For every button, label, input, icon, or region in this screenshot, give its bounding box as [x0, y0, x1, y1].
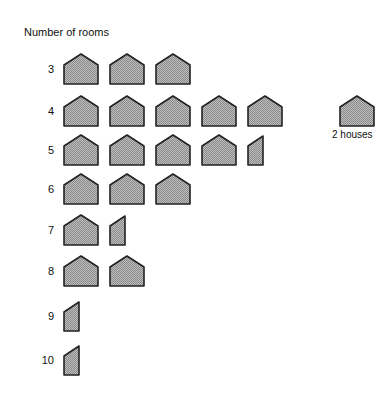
- house-icon: [108, 133, 146, 167]
- row-label: 9: [0, 310, 54, 322]
- pictograph-row: 6: [0, 172, 330, 208]
- pictograph-row: 10: [0, 343, 330, 379]
- house-icon: [154, 94, 192, 128]
- house-icon: [62, 213, 100, 247]
- house-icon: [154, 133, 192, 167]
- row-label: 8: [0, 265, 54, 277]
- house-icon: [338, 94, 376, 128]
- house-icon: [108, 52, 146, 86]
- pictograph-row: 5: [0, 133, 330, 169]
- row-label: 4: [0, 105, 54, 117]
- house-icon: [154, 172, 192, 206]
- half-house-icon: [62, 299, 100, 333]
- pictograph-row: 7: [0, 213, 330, 249]
- legend-label: 2 houses: [332, 129, 373, 140]
- pictograph-row: 3: [0, 52, 330, 88]
- house-icon: [246, 94, 284, 128]
- house-icon: [62, 133, 100, 167]
- half-house-icon: [62, 343, 100, 377]
- half-house-icon: [246, 133, 284, 167]
- house-icon: [108, 172, 146, 206]
- row-label: 10: [0, 354, 54, 366]
- pictograph-row: 8: [0, 254, 330, 290]
- pictograph-row: 9: [0, 299, 330, 335]
- house-icon: [200, 94, 238, 128]
- house-icon: [62, 254, 100, 288]
- house-icon: [108, 94, 146, 128]
- row-label: 3: [0, 63, 54, 75]
- chart-title: Number of rooms: [24, 26, 109, 38]
- row-label: 7: [0, 224, 54, 236]
- half-house-icon: [108, 213, 146, 247]
- house-icon: [108, 254, 146, 288]
- house-icon: [200, 133, 238, 167]
- house-icon: [154, 52, 192, 86]
- row-label: 6: [0, 183, 54, 195]
- house-icon: [62, 52, 100, 86]
- house-icon: [62, 172, 100, 206]
- row-label: 5: [0, 144, 54, 156]
- house-icon: [62, 94, 100, 128]
- pictograph-row: 4: [0, 94, 330, 130]
